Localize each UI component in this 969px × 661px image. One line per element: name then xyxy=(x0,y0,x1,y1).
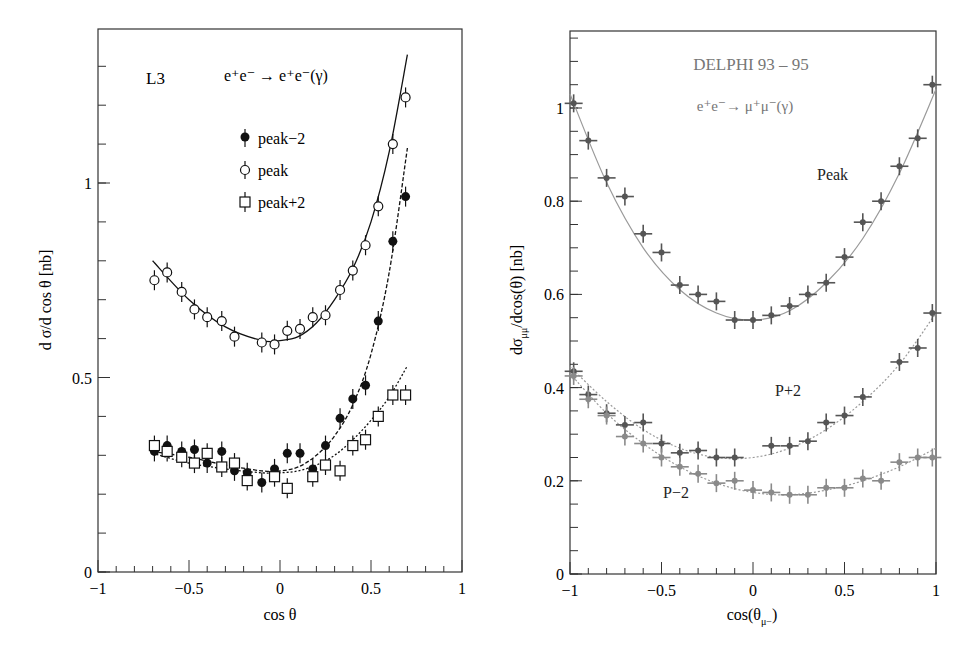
data-point xyxy=(257,332,266,352)
legend-marker-filled-circle-icon xyxy=(241,129,250,147)
x-tick-label: 0 xyxy=(276,580,284,597)
legend-label-peak-plus-2: peak+2 xyxy=(258,194,305,212)
right-x-axis-label: cos(θμ−) xyxy=(727,606,778,627)
data-point xyxy=(321,455,331,475)
data-point xyxy=(401,385,411,405)
data-point xyxy=(177,282,186,302)
data-point xyxy=(388,231,397,251)
data-point xyxy=(671,276,689,294)
data-point xyxy=(565,94,583,112)
data-point xyxy=(689,442,707,460)
x-tick-label: 0 xyxy=(749,582,757,599)
annotation-peak: Peak xyxy=(817,166,848,183)
data-point xyxy=(189,453,199,473)
data-point xyxy=(762,306,780,324)
data-point xyxy=(348,261,357,281)
data-point xyxy=(203,307,212,327)
data-point xyxy=(854,469,872,487)
data-point xyxy=(335,461,345,481)
right-y-ticks: 00.20.40.60.81 xyxy=(544,38,582,583)
data-point xyxy=(598,169,616,187)
data-point xyxy=(909,129,927,147)
data-point xyxy=(616,188,634,206)
x-tick-label: 0.5 xyxy=(835,582,855,599)
left-y-axis-label: d σ/d cos θ [nb] xyxy=(37,250,54,351)
data-point xyxy=(579,132,597,150)
data-point xyxy=(401,87,410,107)
data-point xyxy=(726,311,744,329)
data-point xyxy=(890,453,908,471)
data-point xyxy=(565,367,583,385)
annotation-p-minus-2: P−2 xyxy=(663,484,689,501)
data-point xyxy=(872,472,890,490)
x-tick-label: 1 xyxy=(932,582,940,599)
legend-marker-open-square-icon xyxy=(240,192,250,212)
data-point xyxy=(817,479,835,497)
annotation-p-plus-2: P+2 xyxy=(775,382,801,399)
left-fit-curves xyxy=(153,55,408,474)
right-experiment-label: DELPHI 93 – 95 xyxy=(693,55,809,74)
y-tick-label: 0.6 xyxy=(544,286,564,303)
data-point xyxy=(163,262,172,282)
data-point xyxy=(296,319,305,339)
data-point xyxy=(361,430,371,450)
data-point xyxy=(762,483,780,501)
left-legend: peak−2 peak peak+2 xyxy=(240,129,305,212)
data-point xyxy=(671,458,689,476)
data-point xyxy=(744,481,762,499)
data-point xyxy=(781,486,799,504)
data-point xyxy=(257,473,266,493)
data-point xyxy=(579,390,597,408)
data-point xyxy=(361,375,370,395)
data-point xyxy=(634,225,652,243)
data-point xyxy=(361,235,370,255)
y-tick-label: 1 xyxy=(556,100,564,117)
y-tick-label: 0 xyxy=(84,564,92,581)
data-point xyxy=(872,192,890,210)
data-point xyxy=(689,465,707,483)
data-point xyxy=(348,389,357,409)
data-point xyxy=(923,449,941,467)
legend-label-peak-minus-2: peak−2 xyxy=(258,130,305,148)
data-point xyxy=(634,414,652,432)
y-tick-label: 1 xyxy=(84,175,92,192)
x-tick-label: −0.5 xyxy=(174,580,203,597)
y-tick-label: 0.2 xyxy=(544,473,564,490)
data-point xyxy=(616,428,634,446)
data-point xyxy=(799,432,817,450)
left-plot-frame xyxy=(98,29,462,572)
x-tick-label: −1 xyxy=(89,580,106,597)
right-data-points xyxy=(565,76,942,504)
legend-label-peak: peak xyxy=(258,162,288,180)
left-chart: −1−0.500.51 00.51 L3 e⁺e⁻ → e⁺e⁻(γ) peak… xyxy=(37,29,466,623)
data-point xyxy=(854,388,872,406)
data-point xyxy=(726,449,744,467)
data-point xyxy=(598,407,616,425)
data-point xyxy=(799,285,817,303)
y-tick-label: 0.5 xyxy=(72,370,92,387)
left-y-ticks: 00.51 xyxy=(72,66,110,581)
data-point xyxy=(781,297,799,315)
data-point xyxy=(283,321,292,341)
data-point xyxy=(336,408,345,428)
data-point xyxy=(909,339,927,357)
data-point xyxy=(817,414,835,432)
data-point xyxy=(836,248,854,266)
data-point xyxy=(923,76,941,94)
data-point xyxy=(634,435,652,453)
left-x-ticks: −1−0.500.51 xyxy=(89,560,466,597)
x-tick-label: −1 xyxy=(561,582,578,599)
data-point xyxy=(217,457,227,477)
data-point xyxy=(707,449,725,467)
data-point xyxy=(923,304,941,322)
data-point xyxy=(321,436,330,456)
left-process-label: e⁺e⁻ → e⁺e⁻(γ) xyxy=(224,67,328,85)
data-point xyxy=(836,479,854,497)
data-point xyxy=(744,311,762,329)
data-point xyxy=(150,270,159,290)
data-point xyxy=(296,443,305,463)
data-point xyxy=(217,311,226,331)
data-point xyxy=(282,478,292,498)
right-process-label: e⁺e⁻→ μ⁺μ⁻(γ) xyxy=(697,98,793,115)
data-point xyxy=(781,437,799,455)
